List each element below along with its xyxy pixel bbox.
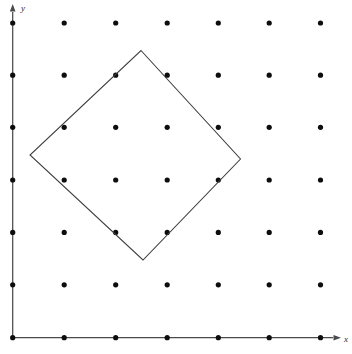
lattice-dot (113, 125, 118, 130)
shapes-group (30, 51, 241, 261)
lattice-dot (113, 282, 118, 287)
lattice-dot (165, 125, 170, 130)
lattice-dot (216, 335, 221, 340)
lattice-dot (165, 177, 170, 182)
lattice-dot (62, 73, 67, 78)
lattice-dot (267, 335, 272, 340)
lattice-dot (62, 177, 67, 182)
lattice-dot (165, 20, 170, 25)
lattice-dot (113, 73, 118, 78)
lattice-dot (318, 230, 323, 235)
lattice-dot (62, 125, 67, 130)
tilted-square (30, 51, 241, 261)
lattice-dot (113, 20, 118, 25)
lattice-dot (318, 125, 323, 130)
lattice-dot (216, 282, 221, 287)
x-axis-arrow-icon (334, 335, 342, 341)
x-axis-label: x (343, 334, 348, 344)
lattice-dot (62, 282, 67, 287)
lattice-dot (318, 177, 323, 182)
lattice-dot (10, 177, 15, 182)
lattice-dot (267, 230, 272, 235)
lattice-dot (10, 335, 15, 340)
lattice-dot (113, 177, 118, 182)
lattice-figure: y x (0, 0, 352, 354)
y-axis-label: y (20, 3, 25, 13)
lattice-dot (62, 230, 67, 235)
lattice-dot (10, 230, 15, 235)
lattice-dot (318, 282, 323, 287)
lattice-dot (165, 282, 170, 287)
lattice-dot (10, 125, 15, 130)
lattice-dot (318, 335, 323, 340)
lattice-dot (216, 73, 221, 78)
lattice-dot (216, 20, 221, 25)
axes-group: y x (10, 3, 348, 344)
lattice-dot (267, 20, 272, 25)
lattice-dot (10, 73, 15, 78)
lattice-dot (267, 73, 272, 78)
lattice-dot (318, 73, 323, 78)
figure-canvas: y x (0, 0, 352, 354)
lattice-dot (267, 125, 272, 130)
lattice-dot (113, 335, 118, 340)
lattice-dot (62, 20, 67, 25)
lattice-dot (267, 177, 272, 182)
lattice-dot (267, 282, 272, 287)
lattice-dot (216, 230, 221, 235)
lattice-dot (318, 20, 323, 25)
lattice-dot (62, 335, 67, 340)
y-axis-arrow-icon (10, 4, 16, 12)
lattice-dot (216, 125, 221, 130)
lattice-dot (165, 335, 170, 340)
lattice-dot (10, 282, 15, 287)
lattice-dot (10, 20, 15, 25)
